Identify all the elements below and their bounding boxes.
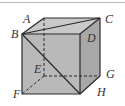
vertex-label-e: E [34,63,41,75]
vertex-label-h: H [97,86,106,98]
vertex-label-g: G [106,68,115,80]
vertex-label-d: D [87,32,96,44]
vertex-label-f: F [13,88,20,100]
vertex-label-a: A [23,13,30,25]
vertex-label-c: C [105,13,113,25]
vertex-label-b: B [11,28,18,40]
